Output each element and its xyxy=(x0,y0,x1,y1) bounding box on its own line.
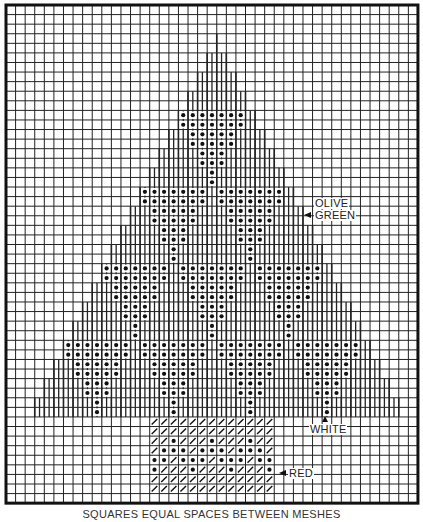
dot xyxy=(258,381,262,385)
dot xyxy=(287,324,291,328)
slash-stitch xyxy=(257,476,263,482)
dot xyxy=(248,238,252,242)
slash-stitch xyxy=(171,486,177,492)
dot xyxy=(258,209,262,213)
slash-stitch xyxy=(219,467,225,473)
dot xyxy=(219,343,223,347)
slash-stitch xyxy=(219,429,225,435)
slash-stitch xyxy=(248,419,254,425)
dot xyxy=(133,295,137,299)
slash-stitch xyxy=(180,467,186,473)
dot xyxy=(239,113,243,117)
dot xyxy=(133,286,137,290)
dot xyxy=(296,343,300,347)
label-white: WHITE xyxy=(309,424,347,435)
dot xyxy=(248,391,252,395)
arrow-red xyxy=(279,470,286,476)
dot xyxy=(181,123,185,127)
dot xyxy=(95,391,99,395)
dot xyxy=(229,295,233,299)
dot xyxy=(124,305,128,309)
dot xyxy=(334,391,338,395)
dot xyxy=(277,190,281,194)
slash-stitch xyxy=(209,429,215,435)
dot xyxy=(258,343,262,347)
dot xyxy=(354,343,358,347)
dot xyxy=(315,276,319,280)
dot xyxy=(133,266,137,270)
dot xyxy=(287,286,291,290)
slash-stitch xyxy=(228,429,234,435)
slash-stitch xyxy=(238,419,244,425)
dot xyxy=(248,343,252,347)
dot xyxy=(267,276,271,280)
dot xyxy=(306,295,310,299)
dot xyxy=(248,410,252,414)
slash-stitch xyxy=(248,476,254,482)
dot xyxy=(181,228,185,232)
dot xyxy=(191,113,195,117)
dot xyxy=(258,458,262,462)
dot xyxy=(143,266,147,270)
dot xyxy=(315,266,319,270)
dot xyxy=(162,353,166,357)
dot xyxy=(162,209,166,213)
slash-stitch xyxy=(267,476,273,482)
dot xyxy=(200,276,204,280)
slash-stitch xyxy=(200,476,206,482)
dot xyxy=(181,381,185,385)
dot xyxy=(306,276,310,280)
dot xyxy=(210,266,214,270)
dot xyxy=(229,286,233,290)
dot xyxy=(239,209,243,213)
dot xyxy=(66,343,70,347)
slash-stitch xyxy=(267,438,273,444)
dot xyxy=(200,266,204,270)
dot xyxy=(181,209,185,213)
dot xyxy=(258,218,262,222)
dot xyxy=(306,372,310,376)
dot xyxy=(229,372,233,376)
dot xyxy=(124,343,128,347)
dot xyxy=(258,276,262,280)
dot xyxy=(334,353,338,357)
slash-stitch xyxy=(161,419,167,425)
dot xyxy=(248,218,252,222)
dot xyxy=(287,266,291,270)
dot xyxy=(239,276,243,280)
dot xyxy=(95,362,99,366)
dot xyxy=(124,266,128,270)
dot xyxy=(219,151,223,155)
slash-stitch xyxy=(219,438,225,444)
dot xyxy=(219,132,223,136)
slash-stitch xyxy=(267,486,273,492)
dot xyxy=(210,142,214,146)
dot xyxy=(219,286,223,290)
dot xyxy=(152,295,156,299)
dot xyxy=(219,190,223,194)
slash-stitch xyxy=(219,486,225,492)
dot xyxy=(114,295,118,299)
dot xyxy=(124,286,128,290)
dot xyxy=(267,218,271,222)
dot xyxy=(248,247,252,251)
dot xyxy=(152,343,156,347)
slash-stitch xyxy=(171,476,177,482)
dot xyxy=(239,228,243,232)
dot xyxy=(239,238,243,242)
dot xyxy=(277,276,281,280)
dot xyxy=(306,266,310,270)
dot xyxy=(172,381,176,385)
dot xyxy=(95,353,99,357)
dot xyxy=(181,113,185,117)
dot xyxy=(191,458,195,462)
dot xyxy=(210,171,214,175)
slash-stitch xyxy=(190,419,196,425)
dot xyxy=(229,266,233,270)
slash-stitch xyxy=(171,457,177,463)
dot xyxy=(258,199,262,203)
dot xyxy=(296,276,300,280)
dot xyxy=(152,362,156,366)
slash-stitch xyxy=(248,486,254,492)
dot xyxy=(248,353,252,357)
